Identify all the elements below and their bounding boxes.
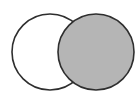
venn-diagram xyxy=(0,0,139,94)
right-circle-shaded xyxy=(58,14,134,90)
